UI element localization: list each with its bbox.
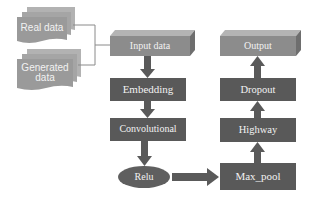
real-data-label: Real data bbox=[17, 19, 67, 37]
max-pool-label: Max_pool bbox=[220, 163, 296, 190]
arrow-up-icon bbox=[250, 56, 265, 78]
arrow-down-icon bbox=[140, 101, 155, 118]
highway-label: Highway bbox=[220, 118, 296, 142]
output-label: Output bbox=[220, 36, 296, 56]
input-data-label: Input data bbox=[110, 36, 190, 56]
embedding-label: Embedding bbox=[110, 78, 186, 101]
convolutional-label: Convolutional bbox=[110, 118, 186, 141]
generated-data-label-line2: data bbox=[35, 73, 54, 84]
relu-label: Relu bbox=[118, 166, 170, 188]
generated-data-label: Generated data bbox=[17, 60, 73, 86]
arrow-right-icon bbox=[172, 168, 219, 186]
arrow-down-icon bbox=[140, 56, 155, 78]
arrow-up-icon bbox=[250, 142, 265, 163]
arrow-down-icon bbox=[137, 141, 152, 166]
dropout-label: Dropout bbox=[220, 78, 296, 101]
arrow-up-icon bbox=[250, 101, 265, 118]
